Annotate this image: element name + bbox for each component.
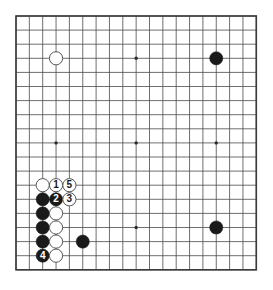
black-stone[interactable] <box>210 52 223 65</box>
star-point <box>215 141 218 144</box>
white-stone[interactable] <box>49 207 62 220</box>
white-stone[interactable] <box>49 235 62 248</box>
black-stone[interactable] <box>36 207 49 220</box>
white-stone[interactable] <box>36 179 49 192</box>
white-stone[interactable] <box>49 221 62 234</box>
black-stone[interactable] <box>210 221 223 234</box>
white-stone[interactable] <box>49 179 62 192</box>
star-point <box>134 57 137 60</box>
white-stone[interactable] <box>63 179 76 192</box>
star-point <box>134 226 137 229</box>
white-stone[interactable] <box>49 52 62 65</box>
white-stone[interactable] <box>49 249 62 262</box>
go-board-svg <box>0 0 273 290</box>
star-point <box>54 141 57 144</box>
black-stone[interactable] <box>49 193 62 206</box>
star-point <box>134 141 137 144</box>
go-board-diagram: 15234 <box>0 0 273 290</box>
black-stone[interactable] <box>36 249 49 262</box>
black-stone[interactable] <box>36 221 49 234</box>
black-stone[interactable] <box>76 235 89 248</box>
black-stone[interactable] <box>36 193 49 206</box>
white-stone[interactable] <box>63 193 76 206</box>
black-stone[interactable] <box>36 235 49 248</box>
